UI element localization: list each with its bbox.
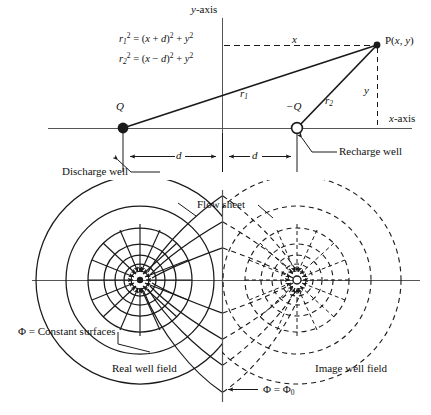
spacing-label-right: d (252, 150, 258, 161)
x-distance-label: x (292, 34, 297, 45)
radius-2-label: r2 (325, 95, 333, 108)
discharge-well-marker (118, 123, 129, 134)
spacing-label-left: d (176, 150, 182, 161)
image-well-field-label: Image well field (315, 363, 387, 374)
source-charge-label: Q (116, 101, 124, 112)
y-distance-label: y (364, 85, 369, 96)
equation-r2: r22 = (x − d)2 + y2 (119, 52, 193, 66)
figure-canvas: y-axis x-axis r12 = (x + d)2 + y2 r22 = … (0, 0, 431, 415)
radius-1-label: r1 (240, 88, 248, 101)
flow-sheet-label: Flow sheet (197, 199, 245, 210)
real-well-field-label: Real well field (112, 363, 177, 374)
equation-r1: r12 = (x + d)2 + y2 (119, 32, 193, 46)
real-well-center-marker (137, 277, 143, 283)
boundary-potential-label: Φ = Φ0 (263, 384, 295, 397)
image-well-center-marker (293, 276, 301, 284)
point-p-marker (374, 42, 381, 49)
constant-surfaces-label: Φ = Constant surfaces (18, 326, 116, 337)
sink-charge-label: −Q (286, 101, 301, 112)
recharge-well-leader (302, 138, 337, 152)
recharge-well-label: Recharge well (339, 146, 402, 157)
flow-sheet-leader-left (178, 203, 196, 216)
recharge-well-marker (292, 123, 303, 134)
y-axis-label: y-axis (191, 4, 217, 15)
point-p-label: P(x, y) (385, 35, 414, 46)
constant-surfaces-leader (118, 332, 150, 352)
image-well-field-streamlines (223, 196, 301, 392)
x-axis-label: x-axis (389, 113, 415, 124)
discharge-well-label: Discharge well (62, 166, 128, 177)
